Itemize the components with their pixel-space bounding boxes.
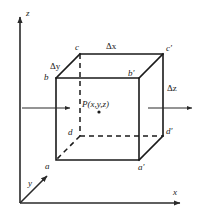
- center-point-group: P(x,y,z): [81, 99, 109, 114]
- delta-x-label: Δx: [106, 41, 117, 51]
- z-axis-label: z: [25, 8, 30, 18]
- cube-diagram: z x y P(x,y,z): [0, 0, 198, 215]
- vertex-a-prime-label: a′: [138, 162, 146, 172]
- vertex-b-label: b: [44, 72, 49, 82]
- vertex-b-prime-label: b′: [128, 68, 136, 78]
- vertex-d-prime-label: d′: [166, 126, 174, 136]
- cube-group: [56, 54, 163, 160]
- y-axis-line: [20, 176, 47, 203]
- x-axis-label: x: [172, 187, 177, 197]
- vertex-c-prime-label: c′: [166, 43, 173, 53]
- y-axis-label: y: [27, 178, 32, 188]
- delta-y-label: Δy: [50, 61, 61, 71]
- figure-container: z x y P(x,y,z): [0, 0, 198, 215]
- point-P-label: P(x,y,z): [81, 99, 109, 109]
- vertex-a-label: a: [45, 161, 50, 171]
- cube-edge-bprime-cprime: [139, 54, 163, 78]
- dimension-label-group: Δx Δy Δz: [50, 41, 177, 93]
- cube-edge-aprime-dprime: [139, 136, 163, 160]
- point-P-dot: [97, 110, 100, 113]
- cube-front-face: [56, 78, 139, 160]
- vertex-c-label: c: [75, 42, 79, 52]
- hidden-edge-d-a: [56, 136, 80, 160]
- vertex-d-label: d: [68, 127, 73, 137]
- delta-z-label: Δz: [167, 83, 177, 93]
